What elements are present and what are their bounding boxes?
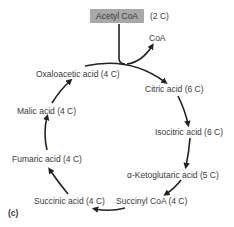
citrate-to-isocitrate-arrow	[178, 96, 188, 124]
oxaloacetate-to-citrate-arrow	[85, 63, 165, 82]
succinate-to-fumarate-arrow	[50, 170, 68, 194]
fumarate-to-malate-arrow	[45, 117, 47, 150]
coa-release-arrow	[127, 46, 152, 64]
acetyl-coa-entry-arrow	[119, 24, 125, 64]
cycle-arrows	[0, 0, 234, 227]
ketoglutarate-to-succinylcoa-arrow	[166, 180, 181, 194]
succinylcoa-to-succinate-arrow	[95, 208, 125, 210]
isocitrate-to-ketoglutarate-arrow	[186, 138, 190, 166]
malate-to-oxaloacetate-arrow	[52, 81, 70, 103]
